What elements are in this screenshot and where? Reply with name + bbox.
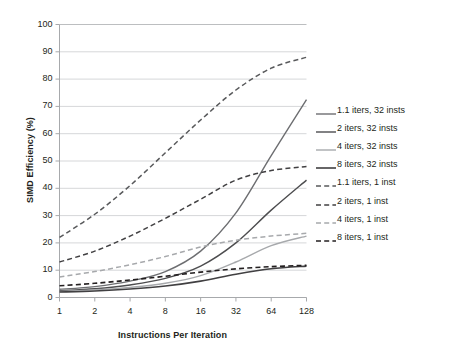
gridlines: [60, 25, 307, 298]
y-tick-label: 80: [27, 73, 53, 83]
legend-item-label: 4 iters, 32 insts: [337, 141, 398, 151]
legend-item: 8 iters, 1 inst: [316, 228, 405, 246]
y-tick-label: 60: [27, 128, 53, 138]
axis-lines: [56, 25, 307, 302]
x-tick-label: 128: [292, 306, 322, 316]
x-tick-label: 16: [186, 306, 216, 316]
x-tick-label: 1: [45, 306, 75, 316]
legend-swatch-icon: [316, 105, 336, 115]
legend-item-label: 1.1 iters, 1 inst: [337, 177, 396, 187]
legend-item-label: 1.1 iters, 32 insts: [337, 105, 405, 115]
legend: 1.1 iters, 32 insts2 iters, 32 insts4 it…: [316, 101, 405, 246]
legend-swatch-icon: [316, 141, 336, 151]
series-line: [60, 166, 307, 262]
legend-swatch-icon: [316, 214, 336, 224]
x-tick-label: 64: [256, 306, 286, 316]
y-tick-label: 40: [27, 182, 53, 192]
legend-item-label: 2 iters, 32 insts: [337, 123, 398, 133]
y-tick-label: 100: [27, 19, 53, 29]
x-tick-label: 8: [150, 306, 180, 316]
series-line: [60, 100, 307, 290]
legend-swatch-icon: [316, 159, 336, 169]
y-tick-label: 30: [27, 210, 53, 220]
series-lines: [60, 57, 307, 292]
y-tick-label: 10: [27, 264, 53, 274]
legend-item-label: 4 iters, 1 inst: [337, 214, 388, 224]
x-tick-label: 4: [115, 306, 145, 316]
y-tick-label: 70: [27, 100, 53, 110]
legend-item: 1.1 iters, 32 insts: [316, 101, 405, 119]
legend-item-label: 8 iters, 32 insts: [337, 159, 398, 169]
legend-item: 2 iters, 1 inst: [316, 191, 405, 209]
legend-item-label: 8 iters, 1 inst: [337, 232, 388, 242]
legend-swatch-icon: [316, 232, 336, 242]
x-tick-label: 2: [80, 306, 110, 316]
legend-item: 8 iters, 32 insts: [316, 155, 405, 173]
legend-item-label: 2 iters, 1 inst: [337, 196, 388, 206]
x-tick-label: 32: [221, 306, 251, 316]
y-tick-label: 20: [27, 237, 53, 247]
legend-item: 4 iters, 32 insts: [316, 137, 405, 155]
y-tick-label: 0: [27, 292, 53, 302]
y-tick-label: 50: [27, 155, 53, 165]
legend-item: 2 iters, 32 insts: [316, 119, 405, 137]
legend-item: 4 iters, 1 inst: [316, 210, 405, 228]
series-line: [60, 57, 307, 237]
legend-item: 1.1 iters, 1 inst: [316, 173, 405, 191]
legend-swatch-icon: [316, 123, 336, 133]
x-axis-title: Instructions Per Iteration: [40, 330, 305, 340]
y-tick-label: 90: [27, 46, 53, 56]
legend-swatch-icon: [316, 177, 336, 187]
simd-efficiency-chart: Instructions Per Iteration SIMD Efficien…: [0, 0, 453, 352]
legend-swatch-icon: [316, 196, 336, 206]
